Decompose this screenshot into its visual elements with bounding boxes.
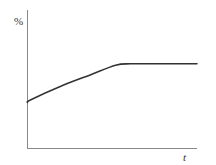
y-axis-label: %	[14, 16, 23, 27]
data-curve	[27, 64, 197, 103]
x-axis-label: t	[183, 152, 186, 163]
line-chart	[0, 0, 216, 165]
